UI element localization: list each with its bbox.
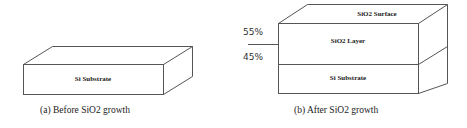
box-b-surface-label: SiO2 Surface [357,10,396,18]
box-b-oxide-layer-label: SiO2 Layer [331,37,365,45]
caption-b: (b) After SiO2 growth [294,105,378,115]
box-a-si-substrate [24,47,193,95]
box-a-substrate-label: Si Substrate [75,75,111,83]
upper-percent-label: 55% [243,27,263,37]
caption-a: (a) Before SiO2 growth [40,105,130,115]
box-b-substrate-label: Si Substrate [330,74,366,82]
lower-percent-label: 45% [243,52,263,62]
